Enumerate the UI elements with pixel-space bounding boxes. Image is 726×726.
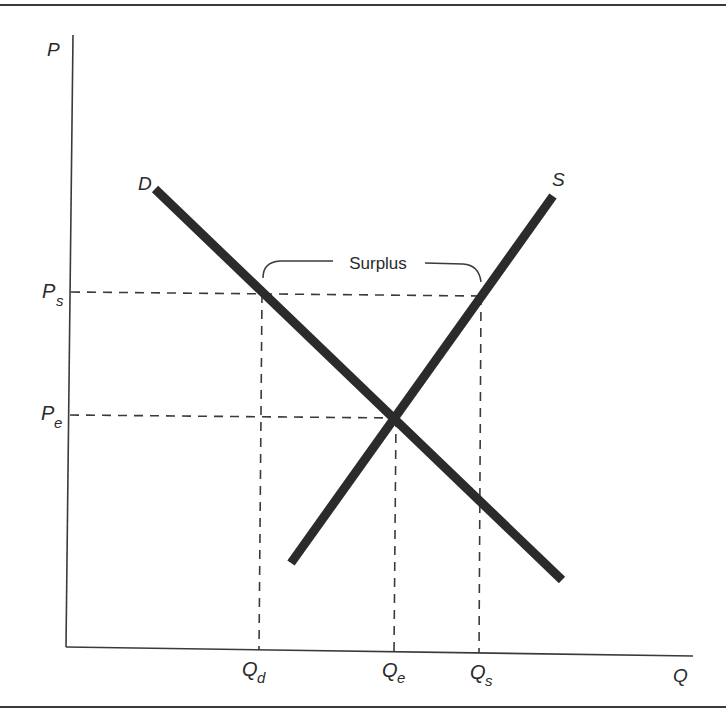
svg-text:Q: Q (382, 659, 398, 681)
pe-label: P e (41, 402, 62, 431)
price-axis-label: P (47, 39, 60, 60)
svg-text:P: P (42, 280, 56, 302)
svg-text:d: d (257, 669, 266, 686)
ps-label: P s (42, 280, 64, 309)
svg-text:P: P (41, 402, 55, 424)
ps-guide (71, 292, 480, 296)
supply-demand-diagram: Surplus P Q D S P s P e Q d Q e Q s (0, 0, 726, 726)
svg-text:Q: Q (470, 661, 486, 683)
surplus-label: Surplus (349, 254, 407, 273)
qs-label: Q s (470, 661, 493, 689)
demand-curve (155, 189, 562, 580)
svg-text:s: s (485, 672, 493, 689)
qs-guide (479, 296, 481, 653)
supply-curve (291, 196, 553, 563)
svg-text:Q: Q (242, 658, 258, 680)
qd-guide (259, 294, 262, 650)
price-axis (66, 35, 73, 647)
pe-guide (70, 415, 395, 418)
svg-text:s: s (56, 292, 64, 309)
qd-label: Q d (242, 658, 266, 686)
qe-label: Q e (382, 659, 405, 686)
qe-guide (394, 418, 396, 652)
supply-label: S (552, 169, 565, 190)
quantity-axis (66, 647, 693, 656)
demand-label: D (138, 173, 152, 194)
svg-text:e: e (54, 414, 62, 431)
quantity-axis-label: Q (673, 665, 688, 686)
dashed-guides (70, 292, 481, 653)
svg-text:e: e (397, 669, 405, 686)
